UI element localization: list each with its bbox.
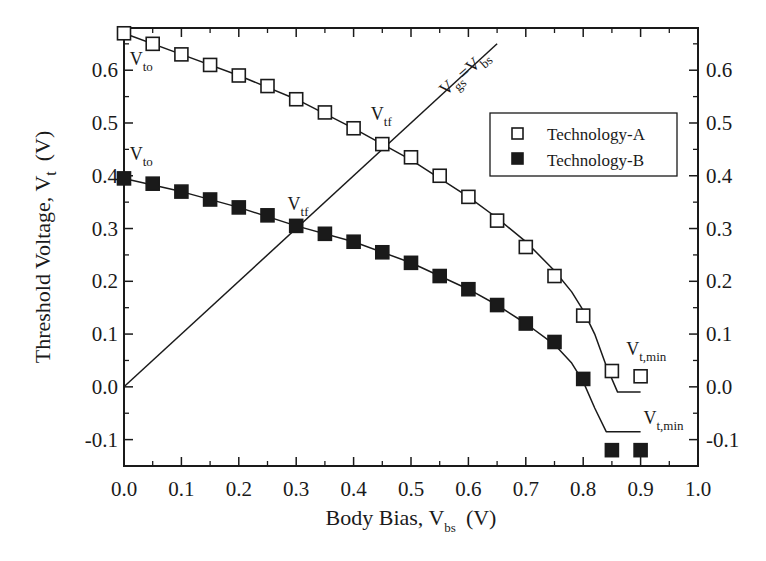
technology-b-point: [204, 193, 217, 206]
technology-a-point: [491, 214, 504, 227]
x-tick-label: 1.0: [685, 477, 711, 501]
technology-b-point: [405, 256, 418, 269]
technology-a-point: [577, 309, 590, 322]
legend-label-technology-b: Technology-B: [547, 151, 644, 170]
y-tick-label-right: 0.5: [706, 111, 732, 135]
technology-b-point: [146, 177, 159, 190]
y-tick-label-left: -0.1: [85, 428, 118, 452]
legend-marker-technology-b: [512, 153, 523, 164]
y-tick-label-left: 0.5: [92, 111, 118, 135]
y-tick-label-left: 0.1: [92, 322, 118, 346]
technology-b-point: [605, 444, 618, 457]
legend-marker-technology-a: [512, 128, 523, 139]
fit-curve-technology-b-model: [124, 178, 641, 431]
technology-a-point: [433, 169, 446, 182]
y-tick-label-left: 0.4: [92, 164, 119, 188]
technology-b-point: [634, 444, 647, 457]
technology-b-point: [290, 219, 303, 232]
technology-b-point: [376, 246, 389, 259]
technology-b-point: [462, 283, 475, 296]
technology-b-point: [577, 372, 590, 385]
x-tick-label: 0.7: [513, 477, 539, 501]
technology-b-point: [318, 227, 331, 240]
y-tick-label-right: -0.1: [706, 428, 739, 452]
technology-b-point: [433, 270, 446, 283]
technology-a-point: [232, 69, 245, 82]
technology-b-point: [347, 235, 360, 248]
x-tick-label: 0.4: [340, 477, 367, 501]
y-tick-label-right: 0.6: [706, 58, 732, 82]
technology-b-point: [118, 172, 131, 185]
fit-curves: [124, 33, 641, 431]
technology-a-point: [118, 27, 131, 40]
y-axis-title: Threshold Voltage, Vt(V): [30, 131, 59, 364]
x-tick-label: 0.9: [627, 477, 653, 501]
data-markers: [118, 27, 648, 457]
technology-a-point: [318, 106, 331, 119]
technology-a-point: [548, 270, 561, 283]
y-tick-label-right: 0.0: [706, 375, 732, 399]
y-tick-label-left: 0.6: [92, 58, 118, 82]
threshold-voltage-chart: 0.00.10.20.30.40.50.60.70.80.91.0 -0.10.…: [0, 0, 766, 561]
annotation-v-tmin: Vt,min: [626, 339, 667, 364]
technology-a-point: [290, 93, 303, 106]
legend: Technology-A Technology-B: [490, 113, 677, 176]
plot-frame: [124, 28, 698, 466]
technology-b-point: [232, 201, 245, 214]
technology-a-point: [347, 122, 360, 135]
vgs-equals-vbs-label: Vgs=Vbs: [435, 46, 495, 103]
x-tick-label: 0.5: [398, 477, 424, 501]
fit-curve-technology-a-model: [124, 33, 641, 392]
y-tick-label-left: 0.0: [92, 375, 118, 399]
annotation-v-to: Vto: [130, 144, 153, 169]
annotation-v-tf: Vtf: [371, 104, 393, 129]
x-tick-label: 0.6: [455, 477, 481, 501]
y-tick-label-right: 0.2: [706, 269, 732, 293]
y-tick-label-left: 0.3: [92, 217, 118, 241]
technology-b-point: [491, 299, 504, 312]
x-tick-label: 0.8: [570, 477, 596, 501]
y-axis-right: -0.10.00.10.20.30.40.50.6: [689, 44, 739, 452]
y-tick-label-right: 0.3: [706, 217, 732, 241]
technology-a-point: [175, 48, 188, 61]
technology-a-point: [146, 37, 159, 50]
y-axis-left: -0.10.00.10.20.30.40.50.6: [85, 44, 133, 452]
legend-label-technology-a: Technology-A: [547, 125, 646, 144]
technology-b-point: [261, 209, 274, 222]
technology-a-point: [204, 58, 217, 71]
annotation-v-to: Vto: [130, 49, 153, 74]
x-tick-label: 0.1: [168, 477, 194, 501]
technology-b-point: [519, 317, 532, 330]
annotation-v-tmin: Vt,min: [643, 408, 684, 433]
technology-b-point: [175, 185, 188, 198]
plot-border: [124, 28, 698, 466]
x-axis-title: Body Bias, Vbs(V): [326, 505, 497, 535]
technology-a-point: [605, 365, 618, 378]
technology-a-point: [462, 190, 475, 203]
fit-curve-vgs-vbs-line: [124, 44, 497, 387]
y-tick-label-left: 0.2: [92, 269, 118, 293]
annotations: VtoVtoVtfVtfVt,minVt,minVgs=Vbs: [130, 46, 684, 433]
technology-a-point: [405, 151, 418, 164]
technology-a-point: [519, 241, 532, 254]
technology-b-point: [548, 335, 561, 348]
x-tick-label: 0.3: [283, 477, 309, 501]
technology-a-point: [376, 138, 389, 151]
annotation-v-tf: Vtf: [288, 194, 310, 219]
y-tick-label-right: 0.4: [706, 164, 733, 188]
x-tick-label: 0.2: [226, 477, 252, 501]
x-tick-label: 0.0: [111, 477, 137, 501]
technology-a-point: [261, 80, 274, 93]
y-tick-label-right: 0.1: [706, 322, 732, 346]
technology-a-point: [634, 370, 647, 383]
